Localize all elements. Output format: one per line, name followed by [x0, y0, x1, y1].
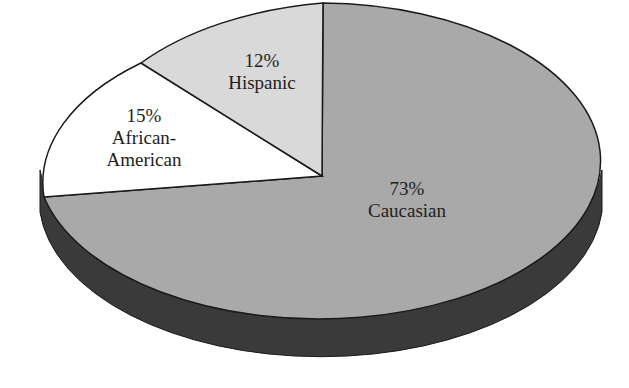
- label-african-american: 15% African- American: [107, 105, 182, 171]
- pie-graphic: [0, 0, 629, 388]
- label-african-american-pct: 15%: [107, 105, 182, 127]
- label-hispanic: 12% Hispanic: [228, 50, 296, 94]
- pie-chart: 12% Hispanic 15% African- American 73% C…: [0, 0, 629, 388]
- label-african-american-name-2: American: [107, 149, 182, 171]
- label-caucasian-pct: 73%: [368, 178, 446, 200]
- label-hispanic-name: Hispanic: [228, 72, 296, 94]
- label-caucasian-name: Caucasian: [368, 200, 446, 222]
- label-caucasian: 73% Caucasian: [368, 178, 446, 222]
- label-african-american-name-1: African-: [107, 127, 182, 149]
- label-hispanic-pct: 12%: [228, 50, 296, 72]
